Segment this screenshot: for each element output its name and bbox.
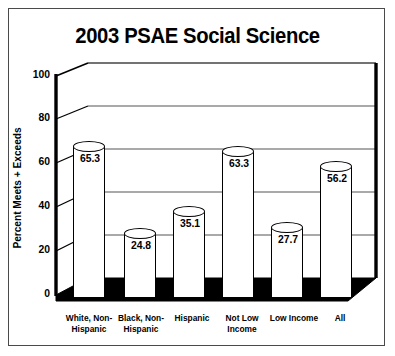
x-label-line: Not Low xyxy=(215,313,269,324)
bar-top-cap xyxy=(222,146,254,157)
y-tick-0: 0 xyxy=(16,287,50,299)
bar-all[interactable]: 56.2 xyxy=(320,0,352,356)
x-label-low-income: Low Income xyxy=(263,313,324,324)
bar-top-cap xyxy=(271,222,303,233)
x-label-all: All xyxy=(323,313,356,324)
bar-value-label: 63.3 xyxy=(225,157,254,169)
chart-plot-area: Percent Meets + Exceeds 100 80 60 40 20 … xyxy=(0,0,395,356)
x-label-not-low-income: Not Low Income xyxy=(215,313,269,334)
y-tick-100: 100 xyxy=(16,68,50,80)
x-label-line: All xyxy=(323,313,356,324)
x-label-line: Hispanic xyxy=(106,324,177,335)
bar-value-label: 56.2 xyxy=(323,172,352,184)
bar-value-label: 27.7 xyxy=(274,233,303,245)
bar-top-cap xyxy=(124,228,156,239)
bar-top-cap xyxy=(73,141,105,152)
x-label-line: Hispanic xyxy=(165,313,219,324)
bar-body xyxy=(222,152,254,297)
y-tick-40: 40 xyxy=(16,199,50,211)
bar-value-label: 65.3 xyxy=(76,152,105,164)
bar-top-cap xyxy=(173,206,205,217)
x-label-hispanic: Hispanic xyxy=(165,313,219,324)
bar-white-non-hispanic[interactable]: 65.3 xyxy=(73,0,105,356)
bar-not-low-income[interactable]: 63.3 xyxy=(222,0,254,356)
bar-value-label: 24.8 xyxy=(127,239,156,251)
y-tick-60: 60 xyxy=(16,155,50,167)
bar-top-cap xyxy=(320,161,352,172)
y-tick-20: 20 xyxy=(16,243,50,255)
x-label-line: Income xyxy=(215,324,269,335)
bar-black-non-hispanic[interactable]: 24.8 xyxy=(124,0,156,356)
x-label-line: Low Income xyxy=(263,313,324,324)
y-tick-80: 80 xyxy=(16,111,50,123)
bar-value-label: 35.1 xyxy=(176,217,205,229)
y-axis-title: Percent Meets + Exceeds xyxy=(11,119,23,257)
bar-hispanic[interactable]: 35.1 xyxy=(173,0,205,356)
bar-low-income[interactable]: 27.7 xyxy=(271,0,303,356)
bar-body xyxy=(320,167,352,297)
bar-body xyxy=(73,147,105,297)
